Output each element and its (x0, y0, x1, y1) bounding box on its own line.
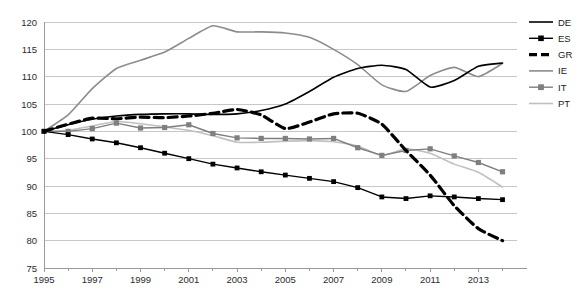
legend-label-de: DE (558, 17, 571, 28)
data-point-marker (500, 197, 505, 202)
data-point-marker (138, 125, 143, 130)
series-ie (44, 26, 503, 132)
data-point-marker (235, 166, 240, 171)
legend-label-es: ES (558, 33, 571, 44)
x-axis-tick-label: 2009 (371, 274, 392, 285)
data-point-marker (90, 126, 95, 131)
data-point-marker (476, 196, 481, 201)
data-point-marker (500, 169, 505, 174)
data-point-marker (331, 179, 336, 184)
legend-item-es[interactable]: ES (529, 33, 571, 44)
data-point-marker (476, 160, 481, 165)
legend-item-de[interactable]: DE (529, 17, 571, 28)
data-point-marker (114, 140, 119, 145)
x-axis-tick-label: 2001 (178, 274, 199, 285)
data-point-marker (114, 121, 119, 126)
data-point-marker (331, 136, 336, 141)
data-point-marker (307, 136, 312, 141)
y-axis-tick-label: 75 (26, 263, 37, 274)
data-point-marker (307, 176, 312, 181)
x-axis-tick-label: 1999 (130, 274, 151, 285)
data-point-marker (234, 135, 239, 140)
y-axis-tick-label: 95 (26, 153, 37, 164)
line-chart: 7580859095100105110115120199519971999200… (0, 0, 578, 305)
x-axis-tick-label: 1997 (82, 274, 103, 285)
data-point-marker (162, 151, 167, 156)
legend-item-it[interactable]: IT (529, 82, 567, 93)
data-point-marker (428, 193, 433, 198)
y-axis-tick-label: 90 (26, 181, 37, 192)
series-line-ie (44, 26, 503, 132)
y-axis-tick-label: 80 (26, 235, 37, 246)
x-axis-tick-label: 2003 (226, 274, 247, 285)
series-it (41, 121, 505, 175)
y-axis-tick-label: 110 (22, 71, 37, 82)
chart-container: 7580859095100105110115120199519971999200… (0, 0, 578, 305)
series-gr (44, 109, 503, 240)
data-point-marker (283, 136, 288, 141)
legend-label-gr: GR (558, 49, 572, 60)
data-point-marker (379, 195, 384, 200)
legend-marker-square (538, 36, 544, 42)
data-point-marker (355, 185, 360, 190)
y-axis-tick-label: 120 (21, 17, 37, 28)
legend-marker-circle (538, 84, 544, 90)
data-point-marker (452, 195, 457, 200)
legend-item-gr[interactable]: GR (529, 49, 572, 60)
legend-label-it: IT (558, 82, 567, 93)
series-es (42, 129, 505, 202)
legend-item-pt[interactable]: PT (529, 98, 570, 109)
data-point-marker (355, 145, 360, 150)
data-point-marker (404, 196, 409, 201)
series-line-it (44, 123, 503, 172)
data-point-marker (259, 169, 264, 174)
x-axis-tick-label: 2013 (468, 274, 489, 285)
data-point-marker (452, 153, 457, 158)
data-point-marker (259, 136, 264, 141)
y-axis-tick-label: 85 (26, 208, 37, 219)
data-point-marker (90, 137, 95, 142)
legend-label-ie: IE (558, 65, 567, 76)
x-axis-tick-label: 2011 (420, 274, 440, 285)
series-line-gr (44, 109, 503, 240)
legend-label-pt: PT (558, 98, 570, 109)
y-axis-tick-label: 115 (22, 44, 37, 55)
data-point-marker (138, 145, 143, 150)
y-axis-tick-label: 100 (21, 126, 37, 137)
x-axis-tick-label: 2005 (275, 274, 296, 285)
data-point-marker (186, 122, 191, 127)
data-point-marker (66, 132, 71, 137)
legend: DEESGRIEITPT (529, 17, 572, 110)
data-point-marker (428, 146, 433, 151)
x-axis-tick-label: 1995 (33, 274, 54, 285)
data-point-marker (162, 125, 167, 130)
data-point-marker (283, 173, 288, 178)
data-point-marker (211, 162, 216, 167)
data-point-marker (210, 131, 215, 136)
data-point-marker (186, 156, 191, 161)
data-point-marker (379, 153, 384, 158)
x-axis-tick-label: 2007 (323, 274, 344, 285)
y-axis-tick-label: 105 (21, 99, 37, 110)
legend-item-ie[interactable]: IE (529, 65, 567, 76)
